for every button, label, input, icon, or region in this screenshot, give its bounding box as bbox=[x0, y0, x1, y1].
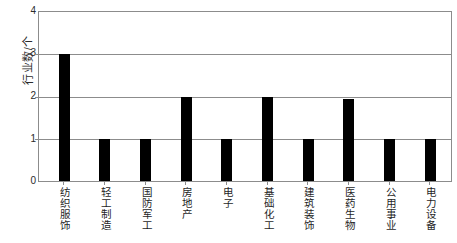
x-axis-category-label: 基础化工 bbox=[260, 187, 273, 231]
bar-chart-figure: 行业数/个 4 3 2 1 0 纺织服饰轻工制造国防军工房地产电子基础化工建筑装… bbox=[0, 0, 457, 243]
figure-caption bbox=[120, 234, 380, 242]
x-axis-category-label: 公用事业 bbox=[382, 187, 395, 231]
bar bbox=[140, 139, 151, 181]
bar bbox=[262, 97, 273, 182]
bar bbox=[343, 99, 354, 181]
x-tickmark bbox=[307, 182, 308, 185]
y-axis-tick-labels: 4 3 2 1 0 bbox=[18, 0, 36, 243]
x-axis-category-label: 房地产 bbox=[179, 187, 192, 220]
x-axis-category-label: 轻工制造 bbox=[97, 187, 110, 231]
x-axis-category-label: 电子 bbox=[219, 187, 232, 209]
bar bbox=[425, 139, 436, 181]
y-tick-label: 3 bbox=[22, 48, 36, 58]
gridline-3 bbox=[39, 54, 451, 55]
x-tickmark bbox=[267, 182, 268, 185]
x-tickmark bbox=[63, 182, 64, 185]
x-tickmark bbox=[429, 182, 430, 185]
x-axis-category-label: 纺织服饰 bbox=[57, 187, 70, 231]
x-tickmark bbox=[348, 182, 349, 185]
bar bbox=[303, 139, 314, 181]
bar bbox=[181, 97, 192, 182]
y-tickmark-2 bbox=[35, 97, 39, 98]
y-tick-label: 1 bbox=[22, 134, 36, 144]
bar bbox=[59, 54, 70, 181]
bar bbox=[99, 139, 110, 181]
y-tickmark-1 bbox=[35, 139, 39, 140]
x-axis-category-label: 医药生物 bbox=[341, 187, 354, 231]
x-axis-category-label: 国防军工 bbox=[138, 187, 151, 231]
x-axis-category-label: 电力设备 bbox=[423, 187, 436, 231]
y-tick-label: 0 bbox=[22, 176, 36, 186]
bar bbox=[384, 139, 395, 181]
y-tick-label: 4 bbox=[22, 6, 36, 16]
x-tickmark bbox=[145, 182, 146, 185]
gridline-2 bbox=[39, 97, 451, 98]
x-tickmark bbox=[185, 182, 186, 185]
x-axis-category-label: 建筑装饰 bbox=[301, 187, 314, 231]
bar bbox=[221, 139, 232, 181]
x-tickmark bbox=[226, 182, 227, 185]
x-tickmark bbox=[389, 182, 390, 185]
y-tick-label: 2 bbox=[22, 91, 36, 101]
plot-area bbox=[38, 11, 452, 182]
x-tickmark bbox=[104, 182, 105, 185]
y-tickmark-3 bbox=[35, 54, 39, 55]
